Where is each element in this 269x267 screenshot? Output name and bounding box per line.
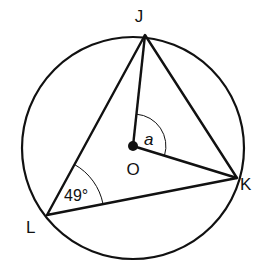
radius-ok [133,146,237,178]
angle-label-49: 49° [64,187,88,204]
circle-diagram: J K L O a 49° [0,0,269,267]
label-k: K [240,175,252,194]
center-point [128,141,138,151]
label-l: L [26,218,35,237]
angle-label-a: a [144,130,153,149]
label-o: O [126,160,139,179]
label-j: J [135,7,144,26]
